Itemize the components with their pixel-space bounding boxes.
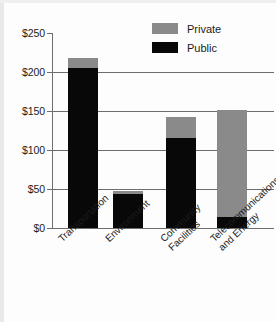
bar-chart: Private Public $0$50$100$150$200$250 Tra… <box>0 0 276 322</box>
page-edge-left <box>0 0 4 322</box>
y-axis-line <box>52 33 53 228</box>
page-edge-top <box>0 0 276 3</box>
y-axis-label: $200 <box>22 66 45 78</box>
plot-area: $0$50$100$150$200$250 <box>52 33 274 228</box>
bar-segment-private <box>166 117 196 138</box>
y-axis-label: $150 <box>22 105 45 117</box>
y-axis-tick <box>47 228 52 229</box>
y-axis-label: $0 <box>34 222 45 234</box>
bar-segment-private <box>217 110 247 217</box>
y-axis-tick <box>47 33 52 34</box>
bar-segment-private <box>68 58 98 68</box>
y-axis-label: $100 <box>22 144 45 156</box>
y-axis-tick <box>47 150 52 151</box>
y-axis-tick <box>47 72 52 73</box>
y-axis-tick <box>47 189 52 190</box>
y-axis-label: $50 <box>28 183 45 195</box>
y-axis-tick <box>47 111 52 112</box>
y-axis-label: $250 <box>22 27 45 39</box>
